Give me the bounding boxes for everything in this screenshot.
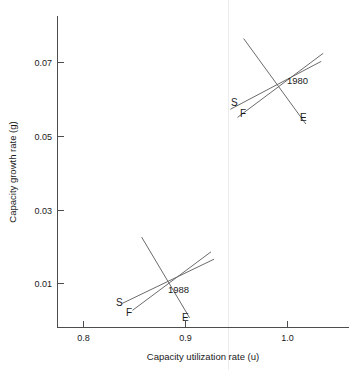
capacity-utilization-growth-chart: 0.07 0.05 0.03 0.01 0.8 0.9 1.0 Capacity…: [0, 0, 363, 370]
cluster-1988-year-label: 1988: [168, 284, 189, 295]
y-tick-label-0.03: 0.03: [34, 206, 52, 216]
cluster-1980-label-f: F: [240, 108, 246, 119]
x-tick-label-0.9: 0.9: [179, 333, 192, 343]
x-tick-label-0.8: 0.8: [77, 333, 90, 343]
cluster-1988-label-s: S: [116, 297, 123, 308]
cluster-1980-label-e: E: [300, 112, 307, 123]
x-tick-label-1.0: 1.0: [281, 333, 294, 343]
x-axis-title: Capacity utilization rate (u): [147, 351, 259, 362]
y-axis-title: Capacity growth rate (g): [7, 121, 18, 222]
cluster-1980-year-label: 1980: [287, 75, 308, 86]
y-tick-label-0.07: 0.07: [34, 58, 52, 68]
cluster-1988-label-e: E: [182, 312, 189, 323]
y-tick-label-0.05: 0.05: [34, 132, 52, 142]
cluster-1980-label-s: S: [231, 97, 238, 108]
y-tick-label-0.01: 0.01: [34, 279, 52, 289]
cluster-1988-label-f: F: [126, 307, 132, 318]
